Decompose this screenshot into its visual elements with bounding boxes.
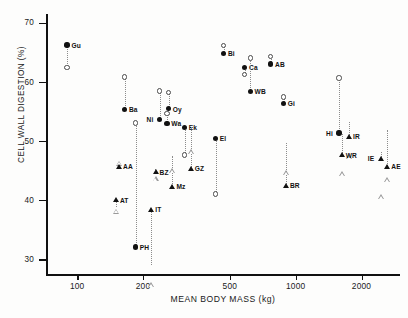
connector-AE: [387, 130, 388, 166]
connector-IT: [151, 210, 152, 266]
filled-circle-marker-Ca: [242, 65, 247, 70]
point-label-Oy: Oy: [173, 106, 182, 113]
y-tick-label-40: 40: [8, 196, 34, 205]
filled-triangle-marker-IR: [346, 134, 352, 139]
point-label-PH: PH: [140, 244, 149, 251]
open-circle-marker-WB: [248, 55, 253, 60]
point-label-Bi: Bi: [228, 50, 235, 57]
x-tick-label-100: 100: [57, 281, 97, 291]
x-tick-label-1000: 1000: [276, 281, 316, 291]
open-circle-marker-AB: [268, 54, 273, 59]
connector-Ba: [125, 77, 126, 110]
x-tick-100: [77, 274, 78, 280]
x-tick-2000: [362, 274, 363, 280]
filled-triangle-marker-AA: [116, 164, 122, 169]
x-tick-200: [143, 274, 144, 280]
connector-BR: [286, 143, 287, 186]
point-label-AA: AA: [123, 163, 133, 170]
open-circle-marker-Wa: [164, 111, 169, 116]
filled-triangle-marker-BR: [283, 183, 289, 188]
point-label-AB: AB: [275, 61, 285, 68]
point-label-IT: IT: [155, 206, 161, 213]
open-triangle-marker-IE: [378, 194, 384, 199]
filled-triangle-marker-IE: [378, 156, 384, 161]
point-label-BZ: BZ: [160, 169, 169, 176]
scatter-chart: 3040506070 10020050010002000 CELL WALL D…: [0, 0, 408, 318]
open-circle-marker-Hi: [336, 75, 341, 80]
x-tick-500: [230, 274, 231, 280]
point-label-BR: BR: [290, 182, 300, 189]
open-triangle-marker-BR: [283, 170, 289, 175]
filled-circle-marker-WB: [248, 89, 253, 94]
point-label-Hi: Hi: [326, 130, 333, 137]
y-tick-50: [39, 141, 46, 142]
y-tick-60: [39, 82, 46, 83]
open-triangle-marker-WR: [339, 171, 345, 176]
filled-triangle-marker-GZ: [188, 166, 194, 171]
open-circle-marker-El: [213, 191, 218, 196]
point-label-WB: WB: [255, 88, 266, 95]
connector-GZ: [191, 127, 192, 169]
point-label-Gu: Gu: [71, 42, 80, 49]
point-label-Wa: Wa: [171, 120, 181, 127]
filled-circle-marker-Gu: [64, 42, 69, 47]
connector-Hi: [339, 78, 340, 133]
y-tick-30: [39, 259, 46, 260]
filled-circle-marker-Ba: [122, 107, 127, 112]
y-tick-40: [39, 200, 46, 201]
x-tick-1000: [296, 274, 297, 280]
connector-WB: [250, 58, 251, 92]
open-circle-marker-Ek: [182, 152, 187, 157]
connector-Ni: [160, 91, 161, 119]
open-triangle-marker-AT: [113, 209, 119, 214]
y-tick-label-30: 30: [8, 255, 34, 264]
open-circle-marker-Bi: [221, 43, 226, 48]
open-circle-marker-Ca: [242, 72, 247, 77]
open-circle-marker-Gi: [281, 94, 286, 99]
connector-Ek: [185, 128, 186, 156]
filled-triangle-marker-WR: [339, 152, 345, 157]
open-triangle-marker-IT: [148, 282, 154, 287]
open-triangle-marker-BZ: [153, 176, 159, 181]
point-label-IR: IR: [353, 133, 360, 140]
open-circle-marker-Oy: [166, 90, 171, 95]
y-tick-label-70: 70: [8, 18, 34, 27]
y-tick-70: [39, 23, 46, 24]
y-axis-line: [46, 14, 48, 276]
open-triangle-marker-Mz: [169, 168, 175, 173]
point-label-Mz: Mz: [176, 183, 185, 190]
point-label-Ni: Ni: [147, 116, 154, 123]
point-label-El: El: [220, 135, 227, 142]
x-tick-label-500: 500: [210, 281, 250, 291]
filled-triangle-marker-AT: [113, 197, 119, 202]
filled-triangle-marker-BZ: [153, 169, 159, 174]
point-label-GZ: GZ: [195, 165, 204, 172]
open-triangle-marker-GZ: [188, 149, 194, 154]
open-circle-marker-Ba: [122, 74, 127, 79]
x-axis-title: MEAN BODY MASS (kg): [46, 294, 400, 304]
point-label-WR: WR: [346, 152, 357, 159]
x-tick-label-200: 200: [123, 281, 163, 291]
point-label-Gi: Gi: [288, 100, 295, 107]
point-label-IE: IE: [368, 155, 375, 162]
filled-circle-marker-El: [213, 136, 218, 141]
open-circle-marker-PH: [133, 120, 138, 125]
filled-circle-marker-Gi: [281, 101, 286, 106]
filled-circle-marker-Ni: [157, 117, 162, 122]
filled-triangle-marker-AE: [384, 164, 390, 169]
filled-circle-marker-Bi: [221, 51, 226, 56]
x-tick-label-2000: 2000: [342, 281, 382, 291]
data-series: GuBaNiOyWaEkBiCaWBABGiElHiPHAAATBZMzITGZ…: [0, 0, 408, 55]
point-label-AE: AE: [391, 163, 400, 170]
y-axis-title: CELL WALL DIGESTION (%): [17, 40, 26, 170]
open-circle-marker-Gu: [64, 65, 69, 70]
filled-circle-marker-Wa: [164, 121, 169, 126]
open-circle-marker-Ni: [157, 88, 162, 93]
point-label-Ba: Ba: [129, 106, 138, 113]
filled-circle-marker-PH: [133, 244, 138, 249]
filled-circle-marker-Ek: [182, 125, 187, 130]
open-triangle-marker-AE: [384, 177, 390, 182]
filled-triangle-marker-Mz: [169, 184, 175, 189]
point-label-AT: AT: [120, 197, 129, 204]
x-axis-line: [46, 274, 400, 276]
